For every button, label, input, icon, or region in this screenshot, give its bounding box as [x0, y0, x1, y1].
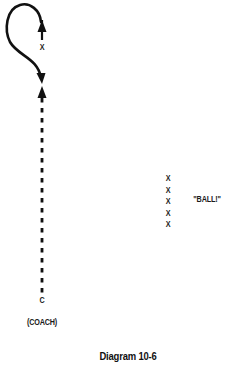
line-player-x: X [166, 220, 171, 229]
runner-x-symbol: X [39, 43, 44, 52]
line-player-x: X [166, 186, 171, 195]
ball-callout: "BALL!" [193, 195, 220, 204]
dashed-arrowhead-up-icon [38, 86, 47, 98]
arrowhead-up-icon [38, 20, 47, 32]
line-player-x: X [166, 209, 171, 218]
line-player-x: X [166, 197, 171, 206]
diagram-caption: Diagram 10-6 [99, 350, 156, 362]
play-diagram [0, 0, 237, 368]
line-player-x: X [166, 174, 171, 183]
coach-label: (COACH) [27, 318, 57, 327]
curved-route-line [7, 4, 41, 78]
arrowhead-down-icon [37, 73, 46, 84]
coach-symbol: C [39, 296, 44, 305]
